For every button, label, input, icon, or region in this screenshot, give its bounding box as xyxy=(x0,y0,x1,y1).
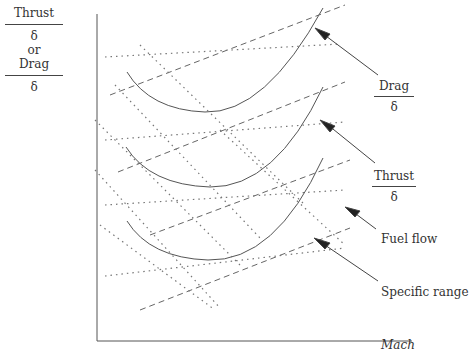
fraction-bar xyxy=(5,24,63,25)
label-drag: Drag δ xyxy=(374,79,414,114)
y-axis-label: Thrust δ or Drag δ xyxy=(4,6,64,94)
label-fuel-flow: Fuel flow xyxy=(381,232,437,246)
thrust-lines xyxy=(110,5,350,310)
y-label-delta-2: δ xyxy=(4,80,64,94)
y-label-drag: Drag xyxy=(4,57,64,71)
label-thrust: Thrust δ xyxy=(372,169,416,204)
fuel-flow-lines xyxy=(95,44,345,310)
y-label-delta-1: δ xyxy=(4,29,64,43)
thrust-denominator: δ xyxy=(372,190,416,204)
fraction-bar xyxy=(374,96,414,97)
drag-numerator: Drag xyxy=(374,79,414,93)
x-axis-label: Mach xyxy=(381,338,415,352)
thrust-numerator: Thrust xyxy=(372,169,416,183)
drag-denominator: δ xyxy=(374,100,414,114)
y-label-thrust: Thrust xyxy=(4,6,64,20)
y-label-or: or xyxy=(4,43,64,57)
annotation-arrows xyxy=(314,28,378,281)
label-specific-range: Specific range xyxy=(381,285,469,299)
fraction-bar xyxy=(372,186,416,187)
fraction-bar xyxy=(5,75,63,76)
